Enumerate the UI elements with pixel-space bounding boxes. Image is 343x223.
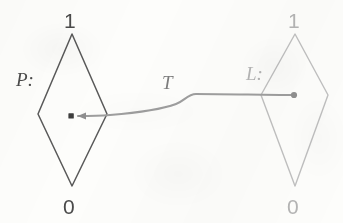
- diagram-canvas: 1 0 P: 1 0 L: T: [0, 0, 343, 223]
- edge-t-label: T: [162, 73, 173, 92]
- node-p-top-label: 1: [64, 10, 76, 31]
- node-l-shape: [261, 34, 328, 186]
- edge-t-curve: [78, 94, 293, 116]
- edge-t-arrowhead: [78, 112, 87, 119]
- node-p-bottom-label: 0: [63, 196, 75, 217]
- node-l-bottom-label: 0: [287, 196, 299, 217]
- edge-t-source-dot: [291, 92, 297, 98]
- diamond-outline-l: [261, 34, 328, 186]
- node-l-name-label: L:: [246, 64, 263, 83]
- diamond-outline-p: [38, 34, 107, 186]
- node-l-top-label: 1: [288, 10, 300, 31]
- node-p-shape: [38, 34, 107, 186]
- diagram-figure: [0, 0, 343, 223]
- node-p-name-label: P:: [16, 70, 34, 89]
- edge-t-target-dot: [68, 113, 73, 118]
